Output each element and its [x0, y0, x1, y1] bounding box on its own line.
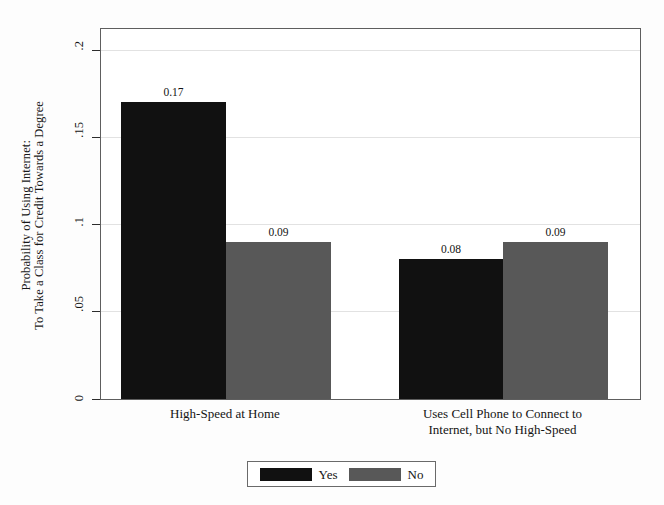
- legend-swatch-no-icon: [349, 468, 401, 481]
- legend-entry-yes[interactable]: Yes: [260, 468, 338, 481]
- y-tick-mark-0: [92, 399, 100, 400]
- legend-label-yes: Yes: [319, 468, 338, 481]
- x-category-line-2: Internet, but No High-Speed: [385, 422, 620, 438]
- x-category-line-1: High-Speed at Home: [120, 406, 330, 422]
- y-tick-label-0: 0: [62, 390, 96, 405]
- gridline-0.2: [101, 50, 640, 51]
- y-axis-title-line-1: Probability of Using Internet:: [20, 140, 33, 291]
- bar-value-label-cellphone-no: 0.09: [503, 226, 608, 238]
- bar-chart-figure: Probability of Using Internet: To Take a…: [0, 0, 664, 505]
- x-axis-category-high-speed-at-home: High-Speed at Home: [120, 406, 330, 422]
- y-tick-label-0.1: .1: [62, 215, 96, 230]
- bar-highspeed-yes[interactable]: [121, 102, 226, 399]
- y-tick-label-0.2: .2: [62, 39, 96, 54]
- y-tick-label-0.15: .15: [62, 122, 96, 142]
- x-axis-category-cell-phone: Uses Cell Phone to Connect to Internet, …: [385, 406, 620, 439]
- legend: Yes No: [247, 461, 436, 487]
- bar-cellphone-yes[interactable]: [399, 259, 503, 399]
- y-tick-label-0.05: .05: [62, 296, 96, 316]
- legend-entry-no[interactable]: No: [349, 468, 424, 481]
- bar-highspeed-no[interactable]: [226, 242, 331, 399]
- plot-area: 0.17 0.09 0.08 0.09: [100, 28, 641, 400]
- y-axis-title: Probability of Using Internet: To Take a…: [0, 0, 62, 430]
- bar-value-label-highspeed-yes: 0.17: [121, 86, 226, 98]
- bar-cellphone-no[interactable]: [503, 242, 608, 399]
- bar-value-label-cellphone-yes: 0.08: [399, 243, 503, 255]
- y-axis-title-line-2: To Take a Class for Credit Towards a Deg…: [33, 101, 46, 330]
- bar-value-label-highspeed-no: 0.09: [226, 226, 331, 238]
- y-tick-mark-0.15: [92, 137, 100, 138]
- x-category-line-1: Uses Cell Phone to Connect to: [385, 406, 620, 422]
- legend-label-no: No: [408, 468, 424, 481]
- legend-swatch-yes-icon: [260, 468, 312, 481]
- y-tick-mark-0.05: [92, 311, 100, 312]
- y-tick-mark-0.1: [92, 224, 100, 225]
- plot-inner: 0.17 0.09 0.08 0.09: [101, 29, 640, 399]
- y-tick-mark-0.2: [92, 50, 100, 51]
